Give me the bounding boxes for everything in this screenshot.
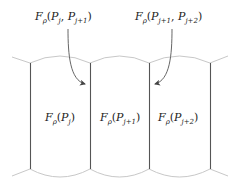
bottom-arc-cell-j2 [149, 169, 210, 177]
top-boundary [12, 56, 228, 63]
bottom-stub-right [210, 169, 228, 176]
cell-label-j1: Fρ(Pj+1) [99, 111, 140, 126]
cell-label-j2: Fρ(Pj+2) [157, 111, 198, 126]
top-arc-cell-j2 [149, 56, 210, 63]
bottom-boundary [12, 169, 228, 177]
top-arc-cell-j [30, 56, 90, 63]
flux-label-j-j1: Fρ(Pj, Pj+1) [34, 10, 92, 25]
bottom-arc-cell-j1 [90, 169, 149, 177]
flux-diagram: Fρ(Pj, Pj+1) Fρ(Pj+1, Pj+2) Fρ(Pj) Fρ(Pj… [0, 0, 238, 189]
top-arc-cell-j1 [90, 56, 149, 63]
bottom-arc-cell-j [30, 169, 90, 177]
flux-label-j1-j2: Fρ(Pj+1, Pj+2) [134, 10, 202, 25]
top-stub-right [210, 56, 228, 63]
bottom-stub-left [12, 169, 30, 176]
top-stub-left [12, 57, 30, 63]
cell-label-j: Fρ(Pj) [44, 111, 75, 126]
